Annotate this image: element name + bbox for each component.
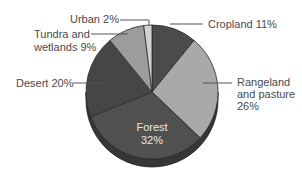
label-tundra-line1: Tundra and <box>34 28 96 40</box>
label-rangeland: Rangeland and pasture 26% <box>237 76 295 112</box>
label-desert: Desert 20% <box>16 77 73 89</box>
label-rangeland-line3: 26% <box>237 100 295 112</box>
label-forest: Forest 32% <box>128 121 176 147</box>
label-rangeland-line1: Rangeland <box>237 76 295 88</box>
label-tundra: Tundra and wetlands 9% <box>34 28 96 53</box>
label-urban: Urban 2% <box>70 13 119 25</box>
label-forest-line1: Forest <box>128 121 176 134</box>
label-forest-line2: 32% <box>128 134 176 147</box>
label-rangeland-line2: and pasture <box>237 88 295 100</box>
label-cropland: Cropland 11% <box>208 18 277 30</box>
label-tundra-line2: wetlands 9% <box>34 41 96 53</box>
